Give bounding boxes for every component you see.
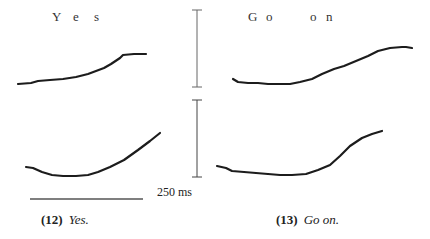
intonation-figure <box>0 0 430 239</box>
panel-13-upper-contour <box>233 47 412 84</box>
caption-number: (12) <box>41 212 63 227</box>
syllable-label: n <box>326 9 333 25</box>
syllable-label: G <box>248 9 257 25</box>
syllable-label: s <box>94 9 99 25</box>
syllable-label: e <box>73 9 79 25</box>
caption-13: (13)Go on. <box>276 212 339 228</box>
panel-12-upper-contour <box>18 54 146 84</box>
syllable-label: Y <box>52 9 61 25</box>
caption-example: Go on. <box>304 212 339 227</box>
caption-12: (12)Yes. <box>41 212 89 228</box>
syllable-label: o <box>266 9 273 25</box>
caption-number: (13) <box>276 212 298 227</box>
vertical-scale-bar-lower <box>192 100 202 177</box>
syllable-label: o <box>310 9 317 25</box>
vertical-scale-bar-upper <box>192 10 202 87</box>
caption-example: Yes. <box>69 212 89 227</box>
panel-12-lower-contour <box>26 133 160 176</box>
panel-13-lower-contour <box>217 131 382 175</box>
time-scale-label: 250 ms <box>157 185 192 200</box>
